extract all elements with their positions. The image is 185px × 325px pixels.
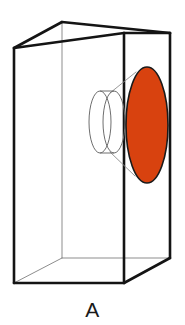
figure-container: A [0, 0, 185, 325]
cross-section-ellipse [126, 67, 168, 183]
cylinder-near-cap [89, 91, 111, 153]
geometry-diagram [0, 0, 185, 325]
